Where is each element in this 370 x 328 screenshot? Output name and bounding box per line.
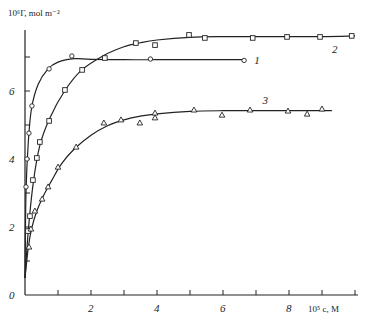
square-marker bbox=[318, 35, 323, 40]
circle-marker bbox=[27, 131, 31, 135]
square-marker bbox=[187, 33, 192, 38]
circle-marker bbox=[47, 67, 51, 71]
square-marker bbox=[349, 34, 354, 39]
curve-label-2: 2 bbox=[332, 43, 338, 55]
triangle-marker bbox=[219, 112, 225, 117]
square-marker bbox=[153, 43, 158, 48]
x-tick-label: 2 bbox=[88, 302, 94, 314]
adsorption-chart: 2468 0246 10⁶Γ, mol m⁻² 10⁵ c, M 123 bbox=[0, 0, 370, 328]
circle-marker bbox=[242, 58, 246, 62]
triangle-marker bbox=[152, 115, 158, 120]
circle-marker bbox=[25, 157, 29, 161]
square-marker bbox=[203, 36, 208, 41]
circle-marker bbox=[30, 104, 34, 108]
square-marker bbox=[38, 140, 43, 145]
y-tick-label: 6 bbox=[9, 85, 15, 97]
triangle-marker bbox=[191, 107, 197, 112]
square-marker bbox=[285, 35, 290, 40]
circle-marker bbox=[70, 54, 74, 58]
square-marker bbox=[47, 119, 52, 124]
triangle-marker bbox=[118, 117, 124, 122]
triangle-marker bbox=[319, 106, 325, 111]
triangle-marker bbox=[101, 120, 107, 125]
axes: 2468 0246 bbox=[9, 30, 358, 314]
circle-marker bbox=[24, 185, 28, 189]
curve-labels: 123 bbox=[254, 43, 338, 106]
x-tick-label: 4 bbox=[154, 302, 160, 314]
curve-2 bbox=[25, 36, 355, 278]
x-tick-label: 8 bbox=[286, 302, 292, 314]
triangle-marker bbox=[39, 196, 45, 201]
triangle-marker bbox=[152, 110, 158, 115]
triangle-marker bbox=[304, 111, 310, 116]
square-marker bbox=[103, 56, 108, 61]
y-axis-label: 10⁶Γ, mol m⁻² bbox=[8, 8, 60, 18]
square-marker bbox=[250, 36, 255, 41]
y-tick-label: 4 bbox=[9, 153, 15, 165]
y-tick-label: 0 bbox=[9, 289, 15, 301]
triangle-marker bbox=[137, 120, 143, 125]
square-marker bbox=[63, 88, 68, 93]
square-marker bbox=[35, 156, 40, 161]
square-marker bbox=[28, 214, 33, 219]
curves bbox=[25, 36, 355, 278]
x-tick-label: 6 bbox=[220, 302, 226, 314]
curve-label-3: 3 bbox=[262, 94, 269, 106]
curve-3 bbox=[25, 111, 332, 278]
triangle-marker bbox=[247, 107, 253, 112]
data-markers bbox=[24, 33, 354, 249]
square-marker bbox=[80, 68, 85, 73]
x-axis-label: 10⁵ c, M bbox=[308, 304, 339, 314]
circle-marker bbox=[148, 57, 152, 61]
y-tick-label: 2 bbox=[9, 221, 15, 233]
square-marker bbox=[134, 41, 139, 46]
square-marker bbox=[31, 178, 36, 183]
curve-label-1: 1 bbox=[254, 54, 260, 66]
